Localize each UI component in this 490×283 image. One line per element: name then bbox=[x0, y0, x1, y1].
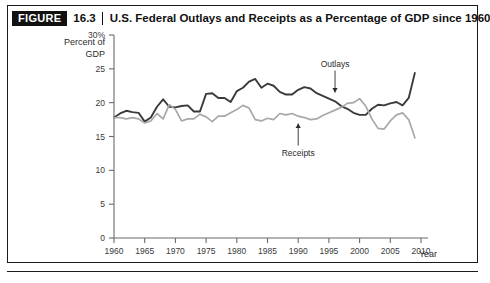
y-tick-label: 20 bbox=[96, 98, 106, 108]
annotation-label-outlays: Outlays bbox=[321, 59, 350, 69]
y-tick-label: 25 bbox=[96, 64, 106, 74]
x-axis: 1960196519701975198019851990199520002005… bbox=[105, 238, 431, 256]
y-axis-title-line2: GDP bbox=[85, 49, 105, 59]
y-tick-label: 5 bbox=[100, 199, 105, 209]
y-axis-title-line1: Percent of bbox=[64, 37, 106, 47]
x-tick-label: 1985 bbox=[258, 246, 277, 256]
data-series-group bbox=[114, 73, 415, 138]
x-tick-label: 1990 bbox=[289, 246, 308, 256]
line-chart: 051015202530% 19601965197019751980198519… bbox=[8, 30, 479, 262]
x-tick-label: 1970 bbox=[166, 246, 185, 256]
x-tick-label: 1975 bbox=[197, 246, 216, 256]
figure-badge-label: FIGURE bbox=[12, 11, 67, 26]
figure-header: FIGURE 16.3 U.S. Federal Outlays and Rec… bbox=[8, 6, 477, 30]
x-axis-title: Year bbox=[419, 249, 437, 259]
x-tick-label: 1980 bbox=[227, 246, 246, 256]
chart-plot-area: 051015202530% 19601965197019751980198519… bbox=[8, 30, 477, 262]
y-tick-label: 15 bbox=[96, 132, 106, 142]
x-tick-label: 2005 bbox=[381, 246, 400, 256]
section-divider bbox=[7, 271, 478, 272]
x-tick-label: 2000 bbox=[350, 246, 369, 256]
x-tick-label: 1995 bbox=[319, 246, 338, 256]
y-tick-label: 10 bbox=[96, 165, 106, 175]
y-axis: 051015202530% bbox=[88, 30, 114, 243]
x-tick-label: 1960 bbox=[105, 246, 124, 256]
y-tick-label: 0 bbox=[100, 233, 105, 243]
figure-container: FIGURE 16.3 U.S. Federal Outlays and Rec… bbox=[7, 5, 478, 263]
x-tick-label: 1965 bbox=[135, 246, 154, 256]
annotation-label-receipts: Receipts bbox=[282, 148, 315, 158]
figure-number: 16.3 bbox=[67, 12, 102, 25]
figure-title: U.S. Federal Outlays and Receipts as a P… bbox=[103, 12, 490, 25]
